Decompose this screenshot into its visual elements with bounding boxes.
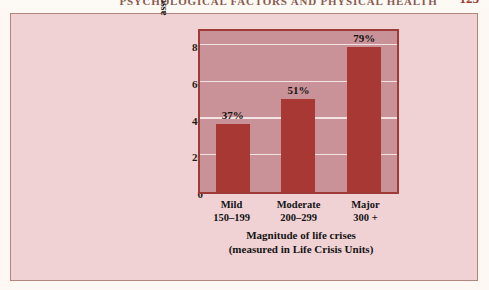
bar-slot: 37%: [200, 31, 266, 192]
x-axis-category: Major300 +: [332, 198, 399, 224]
x-axis-category-range: 300 +: [332, 211, 399, 224]
x-axis-category-range: 200–299: [265, 211, 332, 224]
x-axis-category-name: Mild: [198, 198, 265, 211]
x-axis-category: Mild150–199: [198, 198, 265, 224]
x-axis-category-labels: Mild150–199Moderate200–299Major300 +: [198, 198, 399, 224]
y-axis-title-line1: Percentage of life crises: [147, 0, 158, 1]
bar-slot: 79%: [331, 31, 397, 192]
plot-area: 37%51%79%: [198, 29, 399, 194]
figure-panel: Percentage of life crises associated wit…: [10, 13, 478, 281]
x-axis-category-range: 150–199: [198, 211, 265, 224]
bar[interactable]: 79%: [347, 47, 381, 192]
x-axis-category-name: Major: [332, 198, 399, 211]
x-axis-title-line1: Magnitude of life crises: [151, 228, 451, 242]
x-axis-title: Magnitude of life crises (measured in Li…: [151, 228, 451, 256]
bar[interactable]: 51%: [281, 99, 315, 193]
bar-value-label: 51%: [287, 84, 309, 96]
x-axis-title-line2: (measured in Life Crisis Units): [151, 242, 451, 256]
bar[interactable]: 37%: [216, 124, 250, 192]
page-number: 123: [460, 0, 480, 7]
bar-slot: 51%: [266, 31, 332, 192]
page-running-head: PSYCHOLOGICAL FACTORS AND PHYSICAL HEALT…: [0, 0, 489, 9]
y-axis-title: Percentage of life crises associated wit…: [144, 0, 172, 32]
y-axis-title-line2: associated with health changes: [158, 0, 169, 15]
bar-value-label: 37%: [222, 109, 244, 121]
bar-series: 37%51%79%: [200, 31, 397, 192]
x-axis-category: Moderate200–299: [265, 198, 332, 224]
x-axis-category-name: Moderate: [265, 198, 332, 211]
bar-value-label: 79%: [353, 32, 375, 44]
